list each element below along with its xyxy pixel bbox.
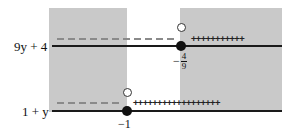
open-circle-9y-plus-4 [177,23,186,32]
fraction-denominator: 9 [182,62,187,71]
filled-dot-1-plus-y [122,106,132,116]
filled-dot-9y-plus-4 [176,41,186,51]
critical-value-minus-four-ninths: − 4 9 [173,52,187,71]
number-line-9y-plus-4 [52,45,282,47]
row-label-1-plus-y: 1 + y [22,105,49,118]
shaded-region-left [49,8,127,112]
number-line-1-plus-y [52,110,282,112]
row-label-9y-plus-4: 9y + 4 [14,40,47,53]
positive-signs-9y-plus-4: +++++++++++ [191,34,244,43]
critical-value-minus-one: −1 [118,118,131,130]
fraction-minus-sign: − [173,54,180,69]
negative-sign-dashes-9y-plus-4 [57,38,175,40]
fraction-stack: 4 9 [181,52,188,71]
negative-sign-dashes-1-plus-y [57,102,122,104]
sign-chart-diagram: 9y + 4 +++++++++++ − 4 9 1 + y +++++++++… [0,0,296,136]
positive-signs-1-plus-y: ++++++++++++++++++ [133,98,220,107]
open-circle-1-plus-y [123,88,132,97]
